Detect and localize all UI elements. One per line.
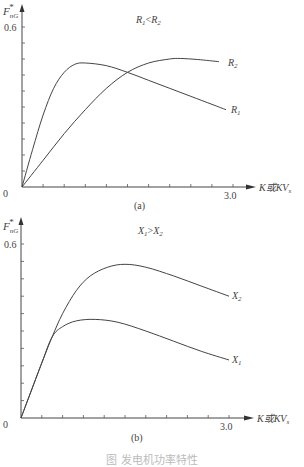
origin-label-b: 0 xyxy=(3,419,8,430)
series-label-x1: X1 xyxy=(231,354,242,367)
curve-r2 xyxy=(22,58,219,187)
chart-a: FnG* 0.6 0 3.0 K或KVs (a) R1<R2 R2 R1 xyxy=(2,2,291,212)
panel-label-a: (a) xyxy=(134,200,145,212)
x-axis-arrow-b xyxy=(244,416,254,421)
y-tick-label-0.6-a: 0.6 xyxy=(4,22,17,33)
curve-r1 xyxy=(22,63,226,187)
x-tick-label-3.0-a: 3.0 xyxy=(224,190,237,201)
curve-x1 xyxy=(21,319,229,418)
series-label-x2: X2 xyxy=(231,290,242,303)
series-label-r1: R1 xyxy=(230,104,241,117)
condition-label-b: X1>X2 xyxy=(137,225,163,238)
y-tick-label-0.6-b: 0.6 xyxy=(4,239,17,250)
figure-caption: 图 发电机功率特性 xyxy=(0,451,304,467)
panel-label-b: (b) xyxy=(131,432,143,444)
y-axis-arrow-a xyxy=(20,4,25,12)
condition-label-a: R1<R2 xyxy=(135,14,161,27)
chart-b: FnG* 0.6 0 3.0 K或KVs (b) X1>X2 X2 X1 xyxy=(2,217,289,444)
curve-x2 xyxy=(21,264,229,418)
x-axis-label-b: K或KVs xyxy=(256,413,289,426)
y-axis-arrow-b xyxy=(19,217,24,225)
y-axis-label-a: FnG* xyxy=(2,2,18,20)
x-tick-label-3.0-b: 3.0 xyxy=(220,421,233,432)
y-axis-label-b: FnG* xyxy=(2,217,18,235)
x-axis-arrow-a xyxy=(246,185,256,190)
origin-label-a: 0 xyxy=(3,188,8,199)
x-axis-label-a: K或KVs xyxy=(258,182,291,195)
series-label-r2: R2 xyxy=(227,57,238,70)
